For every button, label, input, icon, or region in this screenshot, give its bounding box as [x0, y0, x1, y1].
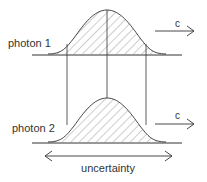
photon-1-label: photon 1 — [8, 37, 51, 49]
photon-2-label: photon 2 — [12, 122, 55, 134]
uncertainty-double-arrow — [45, 151, 172, 161]
photon-1-velocity-label: c — [175, 18, 180, 29]
photon-uncertainty-diagram: photon 1 c photon 2 c uncertainty — [0, 0, 207, 182]
photon-2-wavepacket — [32, 98, 182, 143]
photon-2-velocity-label: c — [175, 110, 180, 121]
uncertainty-label: uncertainty — [81, 162, 135, 174]
